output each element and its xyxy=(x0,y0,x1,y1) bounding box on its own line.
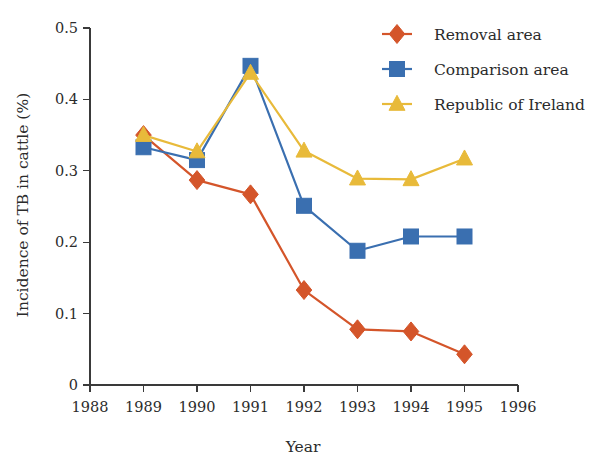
y-tick-label: 0.2 xyxy=(55,234,78,250)
legend-item-removal-area[interactable]: Removal area xyxy=(382,25,542,45)
y-tick-label: 0.3 xyxy=(55,163,78,179)
data-point xyxy=(297,198,312,213)
legend-label: Removal area xyxy=(434,26,542,44)
y-tick-label: 0.1 xyxy=(55,306,78,322)
x-tick-label: 1991 xyxy=(232,399,269,415)
data-point xyxy=(457,345,473,364)
legend-label: Comparison area xyxy=(434,61,569,79)
x-axis-title: Year xyxy=(285,438,321,456)
y-tick-label: 0 xyxy=(69,377,78,393)
tb-incidence-line-chart: 00.10.20.30.40.5 19881989199019911992199… xyxy=(0,0,615,463)
series-comparison-area xyxy=(136,58,472,258)
data-point xyxy=(296,281,312,300)
legend-item-republic-of-ireland[interactable]: Republic of Ireland xyxy=(382,95,585,114)
x-tick-label: 1994 xyxy=(393,399,430,415)
data-point xyxy=(403,322,419,341)
data-point xyxy=(404,229,419,244)
x-tick-label: 1990 xyxy=(179,399,216,415)
data-point xyxy=(457,150,473,165)
data-point xyxy=(350,170,366,185)
x-tick-label: 1993 xyxy=(339,399,376,415)
y-axis: 00.10.20.30.40.5 xyxy=(55,20,90,393)
series-republic-of-ireland xyxy=(136,64,473,185)
x-tick-label: 1996 xyxy=(500,399,537,415)
legend-marker-diamond-icon xyxy=(389,25,405,44)
data-point xyxy=(457,229,472,244)
legend-item-comparison-area[interactable]: Comparison area xyxy=(382,61,569,79)
data-point xyxy=(136,140,151,155)
x-tick-label: 1992 xyxy=(286,399,323,415)
chart-legend: Removal areaComparison areaRepublic of I… xyxy=(382,25,585,115)
x-tick-label: 1989 xyxy=(125,399,162,415)
series-removal-area xyxy=(136,126,473,364)
x-axis: 198819891990199119921993199419951996 xyxy=(72,385,537,415)
data-point xyxy=(350,320,366,339)
y-axis-title: Incidence of TB in cattle (%) xyxy=(14,93,32,317)
x-tick-label: 1988 xyxy=(72,399,109,415)
data-point xyxy=(189,171,205,190)
y-tick-label: 0.5 xyxy=(55,20,78,36)
data-point xyxy=(350,243,365,258)
x-tick-label: 1995 xyxy=(446,399,483,415)
legend-marker-square-icon xyxy=(390,62,405,77)
data-point xyxy=(243,185,259,204)
y-tick-label: 0.4 xyxy=(55,91,78,107)
series-layer xyxy=(136,58,473,363)
legend-label: Republic of Ireland xyxy=(434,96,585,114)
chart-canvas: 00.10.20.30.40.5 19881989199019911992199… xyxy=(0,0,615,463)
legend-marker-triangle-icon xyxy=(389,95,405,110)
